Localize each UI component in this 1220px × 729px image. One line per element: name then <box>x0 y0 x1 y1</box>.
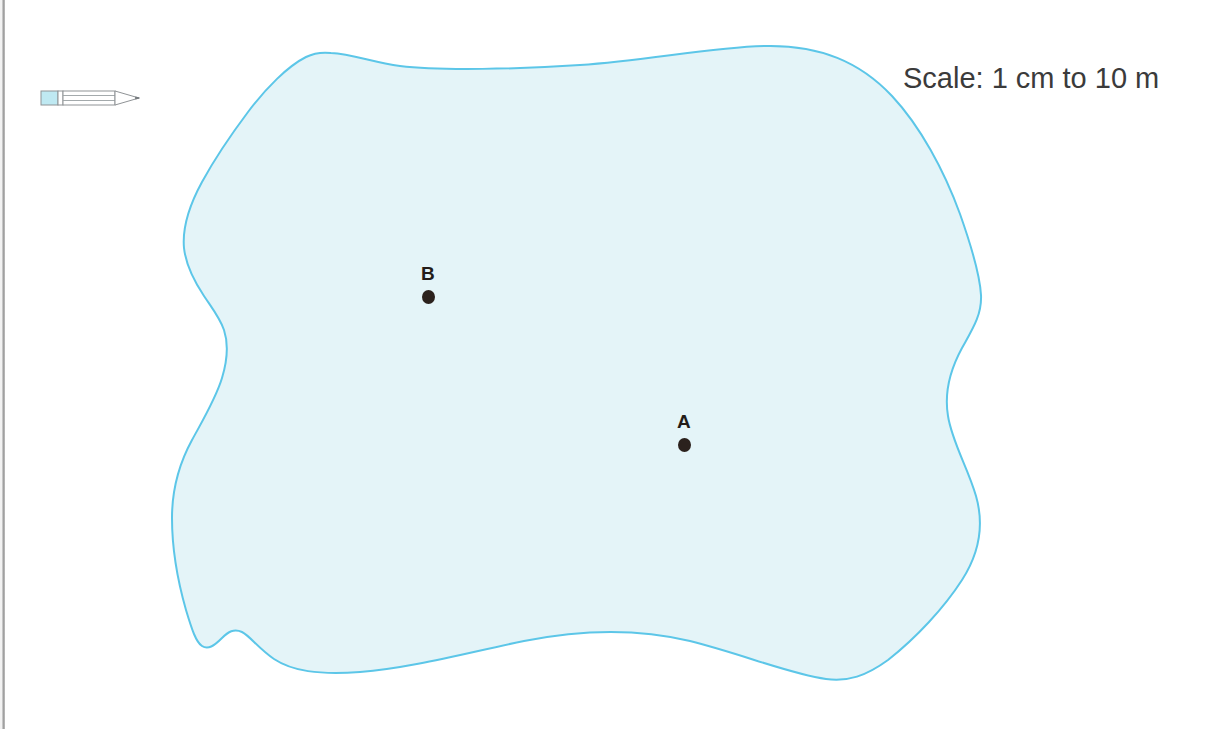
lake-map-canvas: B A Scale: 1 cm to 10 m <box>0 0 1220 729</box>
marker-dot-b[interactable] <box>422 290 435 304</box>
map-marker-b[interactable]: B <box>398 264 458 304</box>
lake-shape <box>0 0 1220 729</box>
marker-label-a: A <box>654 412 714 432</box>
scale-note: Scale: 1 cm to 10 m <box>903 62 1159 95</box>
map-marker-a[interactable]: A <box>654 412 714 452</box>
marker-dot-a[interactable] <box>678 438 691 452</box>
marker-label-b: B <box>398 264 458 284</box>
